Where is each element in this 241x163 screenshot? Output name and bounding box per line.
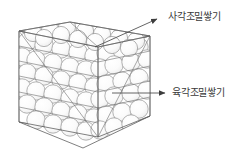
label-hexagonal-close-packing: 육각조밀쌓기 xyxy=(172,87,225,98)
close-packing-diagram xyxy=(0,0,241,163)
label-cubic-close-packing: 사각조밀쌓기 xyxy=(168,11,221,22)
